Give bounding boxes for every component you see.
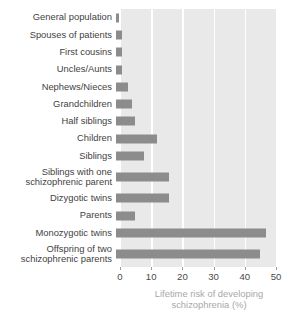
bar-track — [116, 113, 272, 130]
bar-row: Nephews/Nieces — [0, 78, 298, 95]
bar-track — [116, 9, 272, 26]
x-tick-mark — [214, 267, 215, 270]
bar-track — [116, 147, 272, 164]
x-tick-label: 20 — [177, 271, 188, 282]
bar-track — [116, 190, 272, 207]
bar-row: Offspring of two schizophrenic parents — [0, 242, 298, 267]
bar-row: First cousins — [0, 44, 298, 61]
category-label: Parents — [0, 210, 116, 221]
bar-row: Spouses of patients — [0, 26, 298, 43]
bar — [116, 173, 169, 182]
x-tick-mark — [120, 267, 121, 270]
category-label: Dizygotic twins — [0, 193, 116, 204]
bar — [116, 65, 122, 74]
bar-row: Children — [0, 130, 298, 147]
bar — [116, 229, 266, 238]
bar-row: Uncles/Aunts — [0, 61, 298, 78]
bar-track — [116, 44, 272, 61]
bar-track — [116, 207, 272, 224]
bar — [116, 134, 157, 143]
category-label: Monozygotic twins — [0, 228, 116, 239]
category-label: Spouses of patients — [0, 30, 116, 41]
category-label: Children — [0, 133, 116, 144]
x-tick-label: 50 — [271, 271, 282, 282]
bar — [116, 48, 122, 57]
bar — [116, 152, 144, 161]
category-label: Siblings — [0, 151, 116, 162]
bar-track — [116, 26, 272, 43]
bar-row: General population — [0, 9, 298, 26]
category-label: General population — [0, 12, 116, 23]
x-tick-mark — [182, 267, 183, 270]
bar — [116, 194, 169, 203]
x-axis-title: Lifetime risk of developing schizophreni… — [120, 288, 298, 311]
bar-track — [116, 95, 272, 112]
bar-rows: General populationSpouses of patientsFir… — [0, 9, 298, 267]
bar-track — [116, 224, 272, 241]
bar — [116, 30, 122, 39]
category-label: Uncles/Aunts — [0, 64, 116, 75]
bar — [116, 211, 135, 220]
x-tick-label: 0 — [117, 271, 122, 282]
bar-track — [116, 165, 272, 190]
category-label: Siblings with one schizophrenic parent — [0, 167, 116, 188]
bar-row: Siblings — [0, 147, 298, 164]
category-label: Offspring of two schizophrenic parents — [0, 244, 116, 265]
x-tick-label: 40 — [239, 271, 250, 282]
bar — [116, 250, 260, 259]
bar-row: Grandchildren — [0, 95, 298, 112]
x-axis: 01020304050 — [120, 267, 276, 285]
category-label: Nephews/Nieces — [0, 82, 116, 93]
x-tick-label: 10 — [146, 271, 157, 282]
bar-row: Monozygotic twins — [0, 224, 298, 241]
bar-chart-figure: General populationSpouses of patientsFir… — [0, 0, 298, 319]
bar-row: Parents — [0, 207, 298, 224]
bar-track — [116, 78, 272, 95]
bar-track — [116, 130, 272, 147]
bar-row: Dizygotic twins — [0, 190, 298, 207]
bar — [116, 100, 132, 109]
x-tick-label: 30 — [208, 271, 219, 282]
x-tick-mark — [151, 267, 152, 270]
bar — [116, 117, 135, 126]
x-tick-mark — [245, 267, 246, 270]
category-label: Grandchildren — [0, 99, 116, 110]
bar — [116, 82, 128, 91]
bar-track — [116, 61, 272, 78]
category-label: Half siblings — [0, 116, 116, 127]
category-label: First cousins — [0, 47, 116, 58]
bar — [116, 13, 119, 22]
x-tick-mark — [276, 267, 277, 270]
bar-track — [116, 242, 272, 267]
bar-row: Half siblings — [0, 113, 298, 130]
bar-row: Siblings with one schizophrenic parent — [0, 165, 298, 190]
